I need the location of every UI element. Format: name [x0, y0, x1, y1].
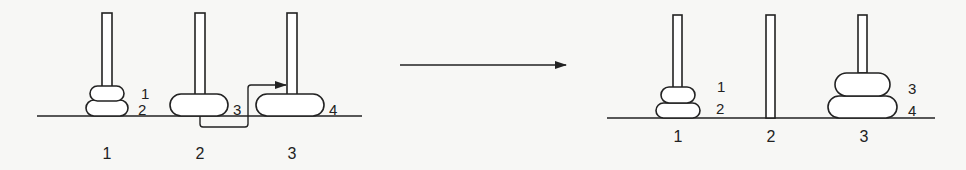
before-disk-1-label: 1 — [141, 85, 149, 102]
before-peg-1 — [102, 13, 112, 87]
after-disk-3 — [835, 73, 890, 96]
before-disk-2-label: 2 — [138, 101, 146, 118]
after-disk-4-label: 4 — [908, 102, 916, 119]
after-disk-1 — [661, 87, 695, 103]
before-peg-3-label: 3 — [288, 145, 297, 162]
before-disk-3-label: 3 — [233, 101, 241, 118]
after-state: 1 2 3 4 1 2 3 — [607, 15, 935, 145]
after-disk-2 — [656, 103, 700, 118]
before-disk-4-label: 4 — [329, 101, 337, 118]
before-disk-1 — [90, 86, 124, 101]
after-disk-2-label: 2 — [716, 100, 724, 117]
before-state: 1 2 3 4 1 2 3 — [37, 13, 362, 162]
after-peg-1 — [673, 15, 682, 88]
after-disk-4 — [828, 96, 897, 118]
before-disk-3 — [170, 94, 228, 116]
after-peg-2-label: 2 — [767, 128, 776, 145]
before-disk-4 — [256, 94, 324, 116]
tower-of-hanoi-diagram: 1 2 3 4 1 2 3 1 2 3 4 1 — [0, 0, 966, 170]
before-peg-1-label: 1 — [103, 145, 112, 162]
after-disk-3-label: 3 — [908, 80, 916, 97]
after-peg-3-label: 3 — [860, 128, 869, 145]
before-peg-3 — [287, 13, 297, 95]
before-peg-2-label: 2 — [196, 145, 205, 162]
after-peg-3 — [858, 15, 867, 73]
after-disk-1-label: 1 — [717, 78, 725, 95]
after-peg-1-label: 1 — [674, 128, 683, 145]
before-disk-2 — [86, 100, 128, 116]
before-peg-2 — [195, 13, 205, 95]
after-peg-2 — [766, 15, 775, 118]
